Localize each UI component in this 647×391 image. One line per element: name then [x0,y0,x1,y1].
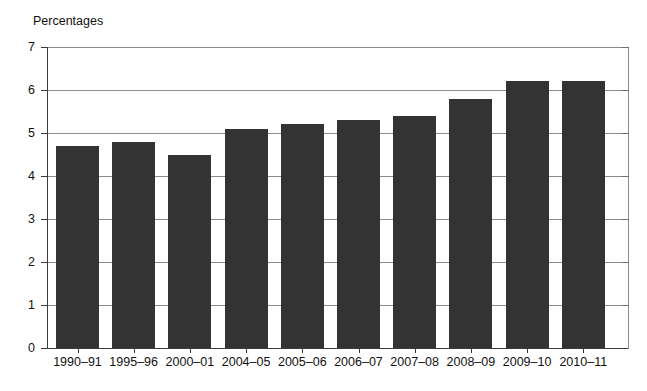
y-axis-tick-label: 2 [9,256,35,269]
y-axis-tick-label: 0 [9,342,35,355]
bar [393,116,436,348]
x-axis-tick [78,348,79,353]
y-axis-tick [41,262,47,263]
x-axis-tick-label: 2008–09 [443,355,499,369]
y-axis-tick [41,176,47,177]
y-axis-tick-label: 4 [9,170,35,183]
x-axis-tick [527,348,528,353]
x-axis-tick [471,348,472,353]
bars-layer [47,47,628,348]
bar [168,155,211,349]
right-axis-line [628,47,629,349]
right-axis-tick [622,47,629,48]
bar [449,99,492,348]
x-axis-tick [583,348,584,353]
x-axis-tick-labels: 1990–911995–962000–012004–052005–062006–… [47,355,628,375]
y-axis-tick-label: 5 [9,127,35,140]
bar [337,120,380,348]
y-axis-tick-label: 7 [9,41,35,54]
x-axis-tick [302,348,303,353]
x-axis-tick [246,348,247,353]
bar [562,81,605,348]
y-axis-tick-label: 3 [9,213,35,226]
y-axis-tick [41,219,47,220]
x-axis-tick-label: 1990–91 [49,355,105,369]
bar [112,142,155,348]
right-axis-tick [622,219,629,220]
right-axis-tick [622,262,629,263]
right-axis-tick [622,133,629,134]
x-axis-tick [134,348,135,353]
x-axis-tick-label: 2004–05 [218,355,274,369]
x-axis-tick-label: 2005–06 [274,355,330,369]
x-axis-tick-label: 2000–01 [162,355,218,369]
bar [506,81,549,348]
y-axis-tick [41,47,47,48]
y-axis-tick-labels: 01234567 [5,0,35,391]
x-axis-tick-label: 2009–10 [499,355,555,369]
bar-chart-figure: Percentages 01234567 1990–911995–962000–… [0,0,647,391]
x-axis-tick [190,348,191,353]
y-axis-tick [41,133,47,134]
right-axis-tick [622,305,629,306]
y-axis-tick-label: 6 [9,84,35,97]
bar [56,146,99,348]
y-axis-tick-label: 1 [9,299,35,312]
right-axis-tick [622,176,629,177]
x-axis-tick-label: 2007–08 [387,355,443,369]
y-axis-title: Percentages [33,14,103,28]
y-axis-tick [41,305,47,306]
bar [225,129,268,348]
right-axis-tick [622,90,629,91]
x-axis-tick-label: 2010–11 [555,355,611,369]
x-axis-tick-label: 1995–96 [106,355,162,369]
x-axis-tick [359,348,360,353]
y-axis-tick [41,90,47,91]
x-axis-tick-label: 2006–07 [330,355,386,369]
x-axis-tick [415,348,416,353]
y-axis-tick [41,348,47,349]
bar [281,124,324,348]
